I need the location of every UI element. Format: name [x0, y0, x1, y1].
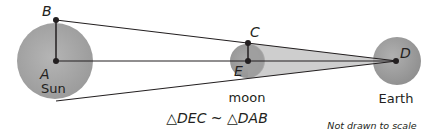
- point-A-dot: [53, 58, 59, 64]
- label-D: D: [400, 45, 411, 61]
- earth-label: Earth: [379, 91, 414, 106]
- line-lower-tangent: [56, 61, 397, 101]
- similarity-statement: △DEC ~ △DAB: [166, 110, 268, 126]
- point-C-dot: [245, 40, 251, 46]
- label-A: A: [39, 66, 50, 82]
- label-B: B: [42, 3, 52, 19]
- point-D-dot: [393, 58, 399, 64]
- point-B-dot: [53, 17, 59, 23]
- label-C: C: [250, 24, 260, 40]
- sun-label: Sun: [41, 81, 66, 96]
- label-E: E: [234, 63, 243, 79]
- point-E-dot: [245, 58, 251, 64]
- moon-label: moon: [229, 90, 266, 105]
- line-BD: [56, 20, 397, 61]
- sun-moon-earth-diagram: B A C E D Sun moon Earth △DEC ~ △DAB Not…: [0, 0, 446, 132]
- scale-note: Not drawn to scale: [327, 120, 416, 131]
